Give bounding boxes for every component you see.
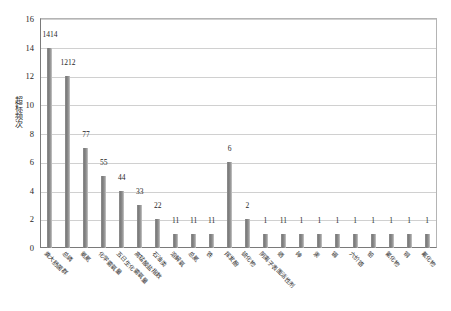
bar-slot: 11 (281, 19, 286, 248)
y-tick-label: 8 (30, 129, 34, 138)
y-axis-title: 超标频次 (10, 96, 22, 128)
bar[interactable] (65, 76, 70, 248)
bar[interactable] (389, 234, 394, 248)
bar[interactable] (371, 234, 376, 248)
bar-slot: 55 (101, 19, 106, 248)
bar-slot: 1 (263, 19, 268, 248)
bar-slot: 44 (119, 19, 124, 248)
y-tick-label: 12 (26, 72, 35, 81)
bar-value-label: 1 (264, 217, 268, 225)
bar-value-label: 2 (246, 202, 250, 210)
bar-slot: 11 (209, 19, 214, 248)
bar[interactable] (299, 234, 304, 248)
bar-value-label: 11 (280, 217, 287, 225)
x-tick-label: 汞 (312, 250, 321, 259)
bar[interactable] (407, 234, 412, 248)
y-tick-label: 14 (26, 43, 35, 52)
bar-value-label: 1 (389, 217, 393, 225)
bar-slot: 2 (245, 19, 250, 248)
x-tick-label: 砷 (294, 250, 303, 259)
y-tick-label: 0 (30, 244, 34, 253)
bar-value-label: 1 (317, 217, 321, 225)
bar[interactable] (155, 219, 160, 248)
bar[interactable] (227, 162, 232, 248)
bar-value-label: 1 (371, 217, 375, 225)
bar-value-label: 1 (299, 217, 303, 225)
bar[interactable] (425, 234, 430, 248)
bar-slot: 11 (173, 19, 178, 248)
bar-slot: 11 (191, 19, 196, 248)
x-tick-label: 溶解氧 (169, 250, 187, 268)
bars-layer: 1414121277554433221111116211111111111 (41, 19, 436, 248)
bar[interactable] (47, 48, 52, 248)
bar-value-label: 1 (335, 217, 339, 225)
bar-slot: 1 (425, 19, 430, 248)
bar-slot: 33 (137, 19, 142, 248)
bar-slot: 1 (353, 19, 358, 248)
bar[interactable] (335, 234, 340, 248)
bar-value-label: 1414 (42, 31, 57, 39)
y-tick-label: 4 (30, 187, 34, 196)
x-axis-labels: 粪大肠菌群总磷氨氮化学需氧量五日生化需氧量高锰酸盐指数石油类溶解氧总氮铁挥发酚硫… (41, 250, 436, 308)
bar-value-label: 77 (82, 131, 90, 139)
bar-slot: 1 (389, 19, 394, 248)
x-tick-label: 氰化物 (384, 250, 402, 268)
bar[interactable] (209, 234, 214, 248)
bar-slot: 6 (227, 19, 232, 248)
x-tick-label: 氨氮 (79, 250, 92, 263)
bar-value-label: 1 (353, 217, 357, 225)
bar-slot: 1 (407, 19, 412, 248)
y-tick-label: 16 (26, 15, 35, 24)
bar-value-label: 55 (100, 159, 108, 167)
x-tick-label: 铜 (402, 250, 411, 259)
bar[interactable] (173, 234, 178, 248)
bar[interactable] (137, 205, 142, 248)
bar-slot: 1 (371, 19, 376, 248)
x-tick-label: 镉 (330, 250, 339, 259)
bar-slot: 1 (335, 19, 340, 248)
bar-value-label: 1212 (60, 59, 75, 67)
bar[interactable] (83, 148, 88, 248)
bar-slot: 1 (299, 19, 304, 248)
y-tick-label: 6 (30, 158, 34, 167)
bar-value-label: 1 (425, 217, 429, 225)
bar-slot: 1 (317, 19, 322, 248)
bar[interactable] (191, 234, 196, 248)
bar-slot: 77 (83, 19, 88, 248)
x-tick-label: 硫化物 (241, 250, 259, 268)
bar-value-label: 33 (136, 188, 144, 196)
bar-value-label: 11 (208, 217, 215, 225)
bar-value-label: 6 (228, 145, 232, 153)
bar-chart: 0246810121416 超标频次 141412127755443322111… (0, 0, 451, 311)
y-tick-label: 2 (30, 215, 34, 224)
bar[interactable] (281, 234, 286, 248)
bar-value-label: 11 (190, 217, 197, 225)
bar-slot: 1414 (47, 19, 52, 248)
bar-value-label: 11 (172, 217, 179, 225)
bar-value-label: 44 (118, 174, 126, 182)
bar[interactable] (317, 234, 322, 248)
bar-slot: 22 (155, 19, 160, 248)
x-tick-label: 总氮 (187, 250, 200, 263)
bar-slot: 1212 (65, 19, 70, 248)
x-tick-label: 铁 (205, 250, 214, 259)
bar[interactable] (263, 234, 268, 248)
x-tick-label: 总磷 (61, 250, 74, 263)
x-tick-label: 硒 (276, 250, 285, 259)
y-tick-label: 10 (26, 101, 35, 110)
bar[interactable] (245, 219, 250, 248)
bar-value-label: 22 (154, 202, 162, 210)
bar[interactable] (101, 176, 106, 248)
x-tick-label: 铅 (366, 250, 375, 259)
x-tick-label: 氟化物 (420, 250, 438, 268)
bar-value-label: 1 (407, 217, 411, 225)
bar[interactable] (353, 234, 358, 248)
bar[interactable] (119, 191, 124, 248)
x-tick-label: 挥发酚 (223, 250, 241, 268)
x-tick-label: 六价铬 (348, 250, 366, 268)
